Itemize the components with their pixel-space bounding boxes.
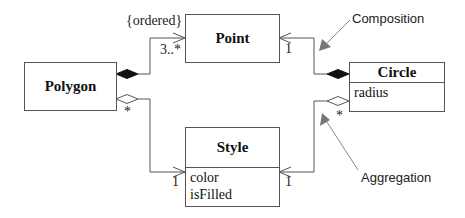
class-attributes: color isFilled <box>186 168 279 204</box>
class-point: Point <box>185 14 280 63</box>
attribute: color <box>190 169 275 186</box>
class-name: Circle <box>350 63 444 83</box>
composition-pointer-arrow <box>319 20 350 51</box>
class-polygon: Polygon <box>24 62 117 111</box>
multiplicity-circle-style-source: * <box>336 108 343 124</box>
attribute: isFilled <box>190 186 275 203</box>
ordered-constraint: {ordered} <box>126 13 182 29</box>
multiplicity-polygon-style-source: * <box>124 104 131 120</box>
class-name: Point <box>186 15 279 62</box>
class-style: Style color isFilled <box>185 127 280 207</box>
uml-class-diagram: Polygon Point Circle radius Style color … <box>0 0 465 218</box>
multiplicity-circle-style-target: 1 <box>285 174 292 190</box>
attribute: radius <box>354 84 440 101</box>
class-name: Polygon <box>25 63 116 110</box>
class-attributes: radius <box>350 83 444 102</box>
class-circle: Circle radius <box>349 62 445 112</box>
class-name: Style <box>186 128 279 168</box>
aggregation-annotation: Aggregation <box>361 170 431 185</box>
multiplicity-circle-point-target: 1 <box>285 41 292 57</box>
multiplicity-polygon-point: 3..* <box>160 42 181 58</box>
composition-annotation: Composition <box>352 11 424 26</box>
multiplicity-polygon-style-target: 1 <box>172 174 179 190</box>
